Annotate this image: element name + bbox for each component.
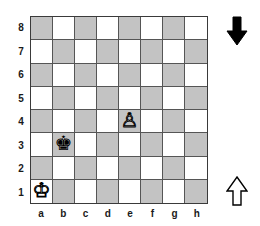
rank-label-6: 6 xyxy=(14,63,28,87)
rank-label-4: 4 xyxy=(14,110,28,134)
square-g6[interactable] xyxy=(163,64,185,87)
square-b7[interactable] xyxy=(53,40,75,63)
square-c5[interactable] xyxy=(75,87,97,110)
square-a8[interactable] xyxy=(31,17,53,40)
square-a3[interactable] xyxy=(31,133,53,156)
piece-black-king[interactable]: ♚ xyxy=(55,133,73,153)
square-b5[interactable] xyxy=(53,87,75,110)
square-g1[interactable] xyxy=(163,180,185,203)
square-e1[interactable] xyxy=(119,180,141,203)
rank-label-1: 1 xyxy=(14,181,28,205)
square-c1[interactable] xyxy=(75,180,97,203)
square-a6[interactable] xyxy=(31,64,53,87)
rank-labels: 87654321 xyxy=(14,16,28,204)
rank-label-8: 8 xyxy=(14,16,28,40)
square-g3[interactable] xyxy=(163,133,185,156)
square-c2[interactable] xyxy=(75,157,97,180)
square-f3[interactable] xyxy=(141,133,163,156)
rank-label-2: 2 xyxy=(14,157,28,181)
square-c7[interactable] xyxy=(75,40,97,63)
square-a7[interactable] xyxy=(31,40,53,63)
square-f6[interactable] xyxy=(141,64,163,87)
chess-diagram: 87654321 ♙♚♔ abcdefgh xyxy=(0,0,260,226)
square-b6[interactable] xyxy=(53,64,75,87)
file-labels: abcdefgh xyxy=(30,205,208,221)
square-e3[interactable] xyxy=(119,133,141,156)
square-h3[interactable] xyxy=(185,133,207,156)
square-d1[interactable] xyxy=(97,180,119,203)
square-d4[interactable] xyxy=(97,110,119,133)
file-label-a: a xyxy=(30,205,52,221)
square-g5[interactable] xyxy=(163,87,185,110)
square-d7[interactable] xyxy=(97,40,119,63)
square-a1[interactable]: ♔ xyxy=(31,180,53,203)
file-label-b: b xyxy=(52,205,74,221)
square-e7[interactable] xyxy=(119,40,141,63)
square-d3[interactable] xyxy=(97,133,119,156)
square-f5[interactable] xyxy=(141,87,163,110)
rank-label-3: 3 xyxy=(14,134,28,158)
square-h4[interactable] xyxy=(185,110,207,133)
square-h2[interactable] xyxy=(185,157,207,180)
square-d2[interactable] xyxy=(97,157,119,180)
square-b4[interactable] xyxy=(53,110,75,133)
square-f8[interactable] xyxy=(141,17,163,40)
square-e5[interactable] xyxy=(119,87,141,110)
square-c6[interactable] xyxy=(75,64,97,87)
file-label-f: f xyxy=(141,205,163,221)
square-h1[interactable] xyxy=(185,180,207,203)
square-f4[interactable] xyxy=(141,110,163,133)
square-h7[interactable] xyxy=(185,40,207,63)
piece-white-king[interactable]: ♔ xyxy=(33,180,51,200)
file-label-c: c xyxy=(75,205,97,221)
square-h6[interactable] xyxy=(185,64,207,87)
square-f2[interactable] xyxy=(141,157,163,180)
square-c3[interactable] xyxy=(75,133,97,156)
rank-label-7: 7 xyxy=(14,40,28,64)
arrow-up-outline-icon xyxy=(226,176,248,206)
square-g8[interactable] xyxy=(163,17,185,40)
file-label-e: e xyxy=(119,205,141,221)
square-d5[interactable] xyxy=(97,87,119,110)
square-f1[interactable] xyxy=(141,180,163,203)
square-a4[interactable] xyxy=(31,110,53,133)
arrow-down-filled-icon xyxy=(226,16,248,46)
square-d8[interactable] xyxy=(97,17,119,40)
file-label-d: d xyxy=(97,205,119,221)
square-c4[interactable] xyxy=(75,110,97,133)
square-g2[interactable] xyxy=(163,157,185,180)
square-c8[interactable] xyxy=(75,17,97,40)
square-g7[interactable] xyxy=(163,40,185,63)
square-b3[interactable]: ♚ xyxy=(53,133,75,156)
square-h5[interactable] xyxy=(185,87,207,110)
file-label-g: g xyxy=(164,205,186,221)
square-d6[interactable] xyxy=(97,64,119,87)
file-label-h: h xyxy=(186,205,208,221)
square-b1[interactable] xyxy=(53,180,75,203)
square-a2[interactable] xyxy=(31,157,53,180)
square-b2[interactable] xyxy=(53,157,75,180)
square-e4[interactable]: ♙ xyxy=(119,110,141,133)
piece-white-pawn[interactable]: ♙ xyxy=(121,110,139,130)
square-e2[interactable] xyxy=(119,157,141,180)
board-area: ♙♚♔ xyxy=(30,16,208,204)
square-g4[interactable] xyxy=(163,110,185,133)
rank-label-5: 5 xyxy=(14,87,28,111)
square-a5[interactable] xyxy=(31,87,53,110)
square-e8[interactable] xyxy=(119,17,141,40)
square-b8[interactable] xyxy=(53,17,75,40)
square-f7[interactable] xyxy=(141,40,163,63)
square-e6[interactable] xyxy=(119,64,141,87)
square-h8[interactable] xyxy=(185,17,207,40)
chess-board[interactable]: ♙♚♔ xyxy=(30,16,208,204)
